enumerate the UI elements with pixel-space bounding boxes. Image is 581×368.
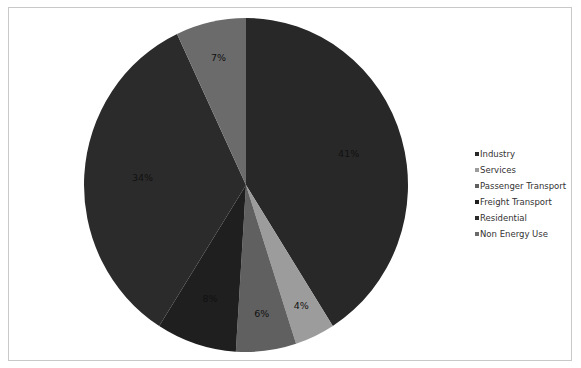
pie-slice-label: 4% (294, 300, 309, 311)
pie-slice-label: 34% (132, 172, 153, 183)
legend-item-non-energy-use: Non Energy Use (475, 226, 566, 242)
legend-item-passenger-transport: Passenger Transport (475, 178, 566, 194)
legend-item-services: Services (475, 162, 566, 178)
legend-item-industry: Industry (475, 146, 566, 162)
legend-swatch-icon (475, 200, 479, 204)
legend-swatch-icon (475, 184, 479, 188)
legend-label: Residential (480, 213, 527, 223)
legend-label: Freight Transport (480, 197, 552, 207)
legend-label: Services (480, 165, 516, 175)
pie-slice-label: 41% (338, 148, 359, 159)
legend-swatch-icon (475, 168, 479, 172)
legend-label: Non Energy Use (480, 229, 548, 239)
pie-slices (84, 18, 408, 352)
legend-label: Passenger Transport (480, 181, 566, 191)
pie-slice-label: 7% (211, 52, 226, 63)
pie-slice-label: 6% (254, 308, 269, 319)
legend-item-residential: Residential (475, 210, 566, 226)
legend-swatch-icon (475, 216, 479, 220)
legend-swatch-icon (475, 152, 479, 156)
pie-slice-label: 8% (202, 293, 217, 304)
legend-label: Industry (480, 149, 515, 159)
legend-swatch-icon (475, 232, 479, 236)
legend: Industry Services Passenger Transport Fr… (475, 146, 566, 242)
legend-item-freight-transport: Freight Transport (475, 194, 566, 210)
